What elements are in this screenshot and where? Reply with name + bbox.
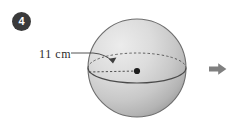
next-arrow-icon[interactable] [209,62,227,76]
sphere-illustration [0,0,234,134]
center-point [134,68,140,74]
figure-canvas: 4 11 cm [0,0,234,134]
dimension-label: 11 cm [39,47,71,62]
